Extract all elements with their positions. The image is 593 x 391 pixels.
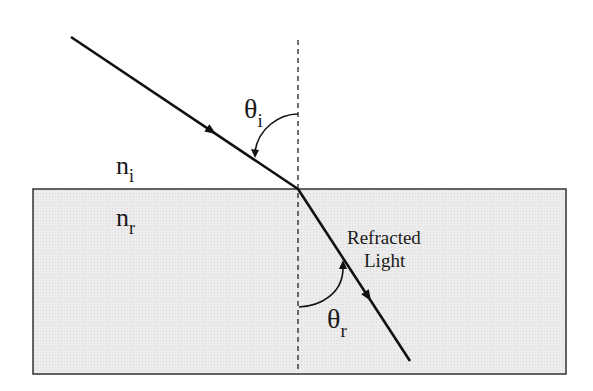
- theta-i-label: θi: [244, 93, 263, 131]
- refraction-diagram: θi θr ni nr Refracted Light: [0, 0, 593, 391]
- n-i-label: ni: [116, 151, 134, 186]
- refracted-light-label-line2: Light: [364, 250, 406, 271]
- theta-i-arrow-icon: [251, 149, 259, 158]
- refracting-medium: [33, 189, 566, 374]
- refracted-light-label-line1: Refracted: [347, 227, 421, 248]
- incident-ray: [71, 37, 298, 189]
